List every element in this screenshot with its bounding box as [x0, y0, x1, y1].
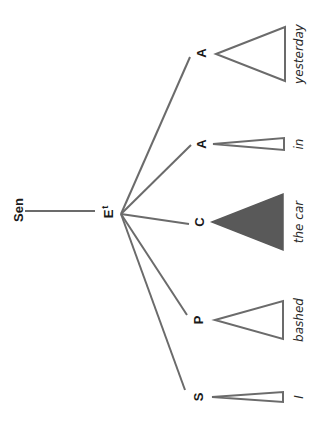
node-p-text: P [191, 316, 206, 325]
edge-to-s [121, 214, 185, 390]
node-label-s: S [192, 389, 206, 405]
edge-to-a-in [121, 145, 191, 214]
root-label-text: Sen [11, 198, 26, 222]
node-c-text: C [192, 217, 207, 226]
triangle-yesterday [216, 27, 285, 81]
word-the-car: the car [293, 192, 307, 252]
edge-to-p [121, 214, 187, 315]
node-label-a-in: A [195, 136, 209, 152]
word-bashed-text: bashed [292, 298, 306, 342]
edge-to-c [121, 214, 189, 224]
tree-branches [0, 0, 330, 428]
triangle-i [212, 392, 283, 402]
clause-label: Et [102, 199, 116, 225]
word-the-car-text: the car [292, 201, 306, 243]
word-bashed: bashed [293, 290, 307, 350]
word-i: I [293, 382, 307, 412]
triangle-bashed [215, 301, 283, 339]
word-yesterday: yesterday [293, 14, 307, 94]
triangle-in [213, 138, 284, 150]
node-label-c: C [193, 214, 207, 230]
word-i-text: I [292, 395, 306, 399]
edge-to-a-yesterday [121, 57, 190, 214]
node-a-text: A [194, 139, 209, 148]
node-label-p: P [192, 312, 206, 328]
syntax-tree-diagram: Sen Et A A C P S yesterday in the car ba… [0, 0, 330, 428]
node-s-text: S [191, 393, 206, 402]
triangle-the-car [212, 194, 283, 250]
clause-label-text: E [101, 210, 116, 219]
node-a-text: A [194, 48, 209, 57]
word-in: in [293, 129, 307, 159]
node-label-a-yesterday: A [195, 45, 209, 61]
clause-superscript: t [100, 206, 110, 209]
word-in-text: in [292, 139, 306, 150]
root-label: Sen [12, 195, 26, 225]
word-yesterday-text: yesterday [292, 24, 306, 84]
